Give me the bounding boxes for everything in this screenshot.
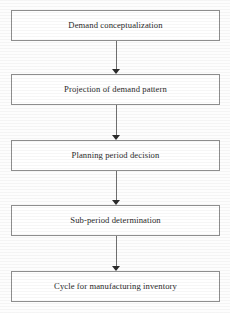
arrow-down-icon-1 [111,41,122,74]
flowchart-node-cycle-for-manufacturing-inventory: Cycle for manufacturing inventory [11,271,220,302]
flowchart-node-label: Sub-period determination [70,216,160,225]
flowchart-node-demand-conceptualization: Demand conceptualization [11,10,220,41]
flowchart-node-label: Demand conceptualization [68,21,162,30]
connector-stem [116,171,117,201]
flowchart-node-label: Projection of demand pattern [64,85,167,94]
connector-stem [116,41,117,70]
arrow-down-icon-4 [111,236,122,271]
flowchart-node-sub-period-determination: Sub-period determination [11,205,220,236]
flowchart-diagram: Demand conceptualization Projection of d… [0,0,230,313]
arrow-down-icon-3 [111,171,122,205]
flowchart-node-planning-period-decision: Planning period decision [11,140,220,171]
connector-stem [116,236,117,267]
flowchart-node-label: Cycle for manufacturing inventory [54,282,177,291]
connector-stem [116,105,117,136]
arrow-down-icon-2 [111,105,122,140]
flowchart-node-label: Planning period decision [72,151,160,160]
flowchart-node-projection-of-demand-pattern: Projection of demand pattern [11,74,220,105]
